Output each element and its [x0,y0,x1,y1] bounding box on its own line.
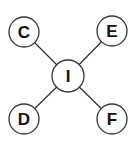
node-i: I [52,60,84,92]
node-d: D [9,104,39,134]
node-label-c: C [18,23,30,42]
node-label-i: I [66,67,71,86]
node-c: C [9,17,39,47]
node-label-e: E [106,22,117,41]
tree-diagram: C E D F I [0,0,138,142]
node-label-d: D [18,110,30,129]
node-label-f: F [107,110,117,129]
node-e: E [97,16,127,46]
node-f: F [97,104,127,134]
